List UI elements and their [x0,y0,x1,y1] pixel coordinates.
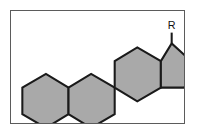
steroid-structure-diagram: R [11,11,184,123]
substituent-label-r: R [168,19,176,31]
ring-b-hexagon [69,74,115,123]
figure-frame: R [10,10,185,124]
ring-c-hexagon [115,47,161,101]
figure-root: R [0,0,197,136]
ring-d-pentagon [161,43,184,87]
ring-a-hexagon [22,74,68,123]
